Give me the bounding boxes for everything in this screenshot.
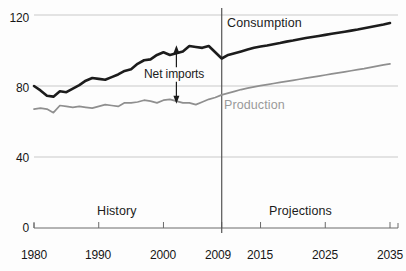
energy-consumption-production-chart: 120 80 40 0 1980 1990 2000 2009 2015 202… bbox=[0, 0, 406, 271]
x-tick-label-2035: 2035 bbox=[365, 249, 406, 261]
production-series-label: Production bbox=[224, 99, 285, 112]
production-line bbox=[34, 64, 390, 113]
net-imports-label: Net imports bbox=[144, 68, 204, 81]
y-tick-label-40: 40 bbox=[0, 152, 29, 164]
x-tick-marks bbox=[34, 222, 390, 228]
y-tick-label-0: 0 bbox=[0, 222, 29, 234]
gridlines bbox=[34, 15, 398, 157]
consumption-series-label: Consumption bbox=[227, 17, 302, 30]
x-tick-label-1980: 1980 bbox=[9, 249, 59, 261]
y-tick-label-120: 120 bbox=[0, 12, 29, 24]
chart-plot-area bbox=[0, 0, 406, 271]
axis-lines bbox=[34, 223, 398, 228]
x-tick-label-1990: 1990 bbox=[73, 249, 123, 261]
projections-period-label: Projections bbox=[269, 205, 332, 218]
y-tick-label-80: 80 bbox=[0, 82, 29, 94]
x-tick-label-2000: 2000 bbox=[138, 249, 188, 261]
history-period-label: History bbox=[97, 205, 137, 218]
x-tick-label-2025: 2025 bbox=[300, 249, 350, 261]
x-tick-label-2015: 2015 bbox=[235, 249, 285, 261]
net-imports-arrowhead-up bbox=[173, 45, 179, 53]
